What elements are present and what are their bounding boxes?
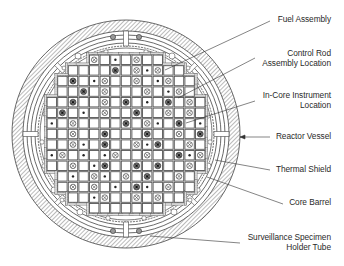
fuel-assembly bbox=[153, 204, 162, 213]
fuel-assembly bbox=[79, 193, 88, 202]
instrument-marker bbox=[82, 143, 84, 145]
fuel-assembly bbox=[196, 108, 205, 117]
fuel-assembly bbox=[47, 98, 56, 107]
instrument-marker bbox=[82, 154, 84, 156]
fuel-assembly bbox=[164, 193, 173, 202]
fuel-assembly bbox=[58, 76, 67, 85]
fuel-assembly bbox=[58, 87, 67, 96]
surveillance-specimen-holder-tube bbox=[136, 228, 141, 233]
instrument-marker bbox=[51, 154, 53, 156]
fuel-assembly bbox=[79, 119, 88, 128]
fuel-assembly bbox=[79, 182, 88, 191]
instrument-marker bbox=[146, 69, 148, 71]
instrument-marker bbox=[146, 186, 148, 188]
fuel-assembly bbox=[121, 66, 130, 75]
instrument-marker bbox=[199, 122, 201, 124]
fuel-assembly bbox=[47, 161, 56, 170]
core-assembly-grid bbox=[44, 52, 207, 215]
fuel-assembly bbox=[79, 172, 88, 181]
fuel-assembly bbox=[174, 66, 183, 75]
label-control-rod-assembly-location: Control Rod Assembly Location bbox=[262, 49, 331, 68]
fuel-assembly bbox=[174, 161, 183, 170]
instrument-marker bbox=[93, 196, 95, 198]
fuel-assembly bbox=[132, 204, 141, 213]
fuel-assembly bbox=[121, 204, 130, 213]
fuel-assembly bbox=[121, 55, 130, 64]
fuel-assembly bbox=[164, 129, 173, 138]
baffle-segment bbox=[184, 190, 186, 205]
fuel-assembly bbox=[185, 119, 194, 128]
fuel-assembly bbox=[58, 172, 67, 181]
fuel-assembly bbox=[196, 161, 205, 170]
radial-support bbox=[124, 31, 129, 46]
fuel-assembly bbox=[90, 66, 99, 75]
instrument-marker bbox=[104, 175, 106, 177]
instrument-marker bbox=[104, 154, 106, 156]
surveillance-specimen-holder-tube bbox=[110, 34, 115, 39]
flow-hole bbox=[40, 140, 44, 144]
fuel-assembly bbox=[164, 161, 173, 170]
instrument-marker bbox=[82, 112, 84, 114]
fuel-assembly bbox=[132, 151, 141, 160]
fuel-assembly bbox=[47, 140, 56, 149]
fuel-assembly bbox=[164, 119, 173, 128]
fuel-assembly bbox=[174, 140, 183, 149]
fuel-assembly bbox=[153, 129, 162, 138]
fuel-assembly bbox=[79, 129, 88, 138]
instrument-marker bbox=[51, 122, 53, 124]
fuel-assembly bbox=[121, 87, 130, 96]
fuel-assembly bbox=[153, 172, 162, 181]
instrument-marker bbox=[104, 133, 106, 135]
label-surveillance-specimen-holder-tube: Surveillance Specimen Holder Tube bbox=[248, 233, 331, 252]
fuel-assembly bbox=[58, 182, 67, 191]
fuel-assembly bbox=[111, 76, 120, 85]
fuel-assembly bbox=[111, 161, 120, 170]
instrument-marker bbox=[93, 80, 95, 82]
fuel-assembly bbox=[153, 108, 162, 117]
fuel-assembly bbox=[90, 140, 99, 149]
fuel-assembly bbox=[132, 129, 141, 138]
fuel-assembly bbox=[143, 193, 152, 202]
fuel-assembly bbox=[174, 76, 183, 85]
fuel-assembly bbox=[132, 87, 141, 96]
fuel-assembly bbox=[90, 204, 99, 213]
fuel-assembly bbox=[132, 119, 141, 128]
fuel-assembly bbox=[185, 129, 194, 138]
fuel-assembly bbox=[100, 55, 109, 64]
fuel-assembly bbox=[68, 66, 77, 75]
fuel-assembly bbox=[79, 66, 88, 75]
fuel-assembly bbox=[164, 151, 173, 160]
label-in-core-instrument-location: In-Core Instrument Location bbox=[263, 91, 331, 110]
instrument-marker bbox=[146, 175, 148, 177]
instrument-marker bbox=[72, 175, 74, 177]
fuel-assembly bbox=[68, 87, 77, 96]
instrument-marker bbox=[157, 165, 159, 167]
fuel-assembly bbox=[100, 204, 109, 213]
instrument-marker bbox=[157, 144, 159, 146]
fuel-assembly bbox=[196, 140, 205, 149]
fuel-assembly bbox=[90, 119, 99, 128]
fuel-assembly bbox=[58, 140, 67, 149]
fuel-assembly bbox=[58, 119, 67, 128]
instrument-marker bbox=[72, 101, 74, 103]
label-fuel-assembly: Fuel Assembly bbox=[278, 15, 331, 25]
baffle-segment bbox=[44, 158, 46, 173]
instrument-marker bbox=[157, 122, 159, 124]
fuel-assembly bbox=[153, 182, 162, 191]
flow-hole bbox=[60, 198, 64, 202]
instrument-marker bbox=[199, 133, 201, 135]
fuel-assembly bbox=[111, 193, 120, 202]
fuel-assembly bbox=[174, 182, 183, 191]
instrument-marker bbox=[136, 112, 138, 114]
fuel-assembly bbox=[132, 172, 141, 181]
fuel-assembly bbox=[111, 119, 120, 128]
fuel-assembly bbox=[121, 129, 130, 138]
fuel-assembly bbox=[111, 108, 120, 117]
fuel-assembly bbox=[164, 140, 173, 149]
surveillance-specimen-holder-tube bbox=[136, 34, 141, 39]
fuel-assembly bbox=[58, 98, 67, 107]
baffle-segment bbox=[206, 158, 208, 173]
fuel-assembly bbox=[174, 108, 183, 117]
fuel-assembly bbox=[164, 172, 173, 181]
fuel-assembly bbox=[79, 76, 88, 85]
